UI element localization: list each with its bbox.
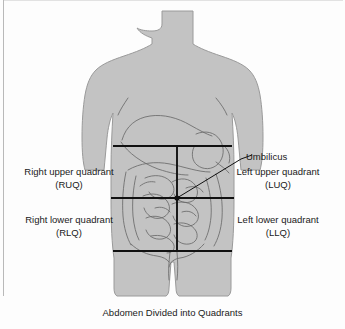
torso-shape [82,11,263,296]
torso-diagram-illustration [0,0,345,329]
label-left-lower-quadrant: Left lower quadrant (LLQ) [216,214,340,239]
label-left-upper-quadrant: Left upper quadrant (LUQ) [216,166,340,191]
label-right-upper-quadrant: Right upper quadrant (RUQ) [8,166,130,191]
label-rlq-abbr: (RLQ) [8,227,130,240]
label-right-lower-quadrant: Right lower quadrant (RLQ) [8,214,130,239]
umbilicus-point-marker [174,195,179,200]
label-llq-abbr: (LLQ) [216,227,340,240]
label-luq-name: Left upper quadrant [237,166,320,177]
label-ruq-abbr: (RUQ) [8,179,130,192]
label-llq-name: Left lower quadrant [237,214,318,225]
label-luq-abbr: (LUQ) [216,179,340,192]
abdominal-quadrants-figure: Right upper quadrant (RUQ) Right lower q… [0,0,345,329]
body-silhouette [82,11,263,296]
label-ruq-name: Right upper quadrant [24,166,113,177]
label-umbilicus: Umbilicus [246,151,287,162]
label-rlq-name: Right lower quadrant [25,214,113,225]
figure-caption: Abdomen Divided into Quadrants [0,307,345,318]
